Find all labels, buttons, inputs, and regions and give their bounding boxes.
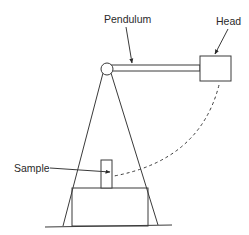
sample-label: Sample <box>14 162 50 174</box>
base-box <box>72 188 148 226</box>
frame-leg-left <box>63 73 103 226</box>
pendulum-arm <box>111 65 200 71</box>
head-arrow <box>215 29 228 54</box>
frame-leg-right <box>111 73 158 225</box>
head-box <box>200 56 231 81</box>
pendulum-label: Pendulum <box>104 13 152 25</box>
pivot-circle <box>101 63 113 75</box>
head-label: Head <box>216 15 241 27</box>
swing-path-arc <box>114 85 219 176</box>
sample-box <box>101 160 112 188</box>
pendulum-arrow <box>126 27 132 63</box>
pendulum-impact-diagram: Pendulum Head Sample <box>0 0 249 235</box>
